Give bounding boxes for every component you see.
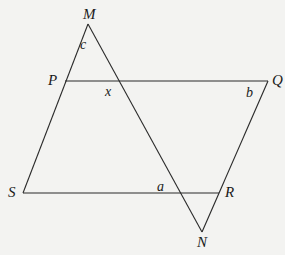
vertex-label-p: P [48, 73, 57, 88]
vertex-label-s: S [8, 185, 16, 200]
angle-label-x: x [105, 85, 111, 99]
angle-label-b: b [246, 86, 253, 100]
geometry-figure [0, 0, 285, 255]
vertex-label-m: M [83, 7, 96, 22]
angle-label-c: c [80, 38, 86, 52]
segment-ms [23, 24, 88, 193]
angle-label-a: a [157, 180, 164, 194]
vertex-label-q: Q [272, 73, 283, 88]
vertex-label-n: N [197, 235, 207, 250]
segment-qr [202, 81, 268, 232]
vertex-label-r: R [225, 185, 234, 200]
segment-mn [88, 24, 202, 232]
